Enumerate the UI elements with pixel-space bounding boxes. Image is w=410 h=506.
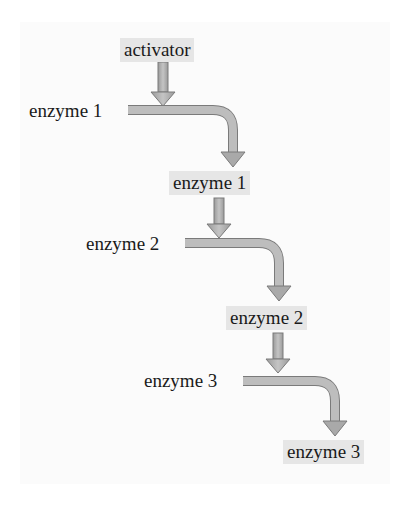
enzyme1-inactive-label: enzyme 1 bbox=[29, 99, 102, 123]
down-arrow-icon bbox=[151, 62, 175, 106]
enzyme1-active-node: enzyme 1 bbox=[169, 171, 250, 195]
enzyme2-active-node: enzyme 2 bbox=[226, 306, 307, 330]
enzyme2-inactive-label: enzyme 2 bbox=[86, 232, 159, 256]
down-arrow-icon bbox=[266, 333, 290, 373]
bent-arrow-icon bbox=[128, 110, 245, 167]
bent-arrow-icon bbox=[185, 243, 291, 301]
bent-arrow-icon bbox=[243, 381, 347, 436]
enzyme3-inactive-label: enzyme 3 bbox=[144, 369, 217, 393]
arrows-layer bbox=[0, 0, 410, 506]
activator-node: activator bbox=[120, 38, 194, 62]
enzyme3-active-node: enzyme 3 bbox=[283, 440, 364, 464]
down-arrow-icon bbox=[207, 198, 231, 238]
